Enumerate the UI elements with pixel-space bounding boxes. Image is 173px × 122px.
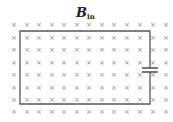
field-cross-icon: × [36,71,42,79]
field-label: Bin [75,5,95,21]
field-cross-icon: × [150,108,156,116]
field-cross-icon: × [111,84,117,92]
field-cross-icon: × [49,34,55,42]
field-cross-icon: × [124,34,130,42]
field-cross-icon: × [163,84,169,92]
field-cross-icon: × [11,34,17,42]
field-cross-icon: × [61,46,67,54]
field-cross-icon: × [163,34,169,42]
field-cross-icon: × [49,59,55,67]
field-cross-icon: × [74,46,80,54]
wire-loop [20,31,150,104]
field-cross-icon: × [74,34,80,42]
field-cross-icon: × [74,71,80,79]
field-cross-icon: × [86,34,92,42]
field-cross-icon: × [86,46,92,54]
field-cross-icon: × [74,96,80,104]
field-cross-icon: × [163,59,169,67]
field-cross-icon: × [36,84,42,92]
field-cross-icon: × [124,84,130,92]
field-cross-icon: × [61,108,67,116]
field-cross-icon: × [163,71,169,79]
field-cross-icon: × [111,59,117,67]
field-cross-icon: × [137,108,143,116]
field-cross-icon: × [49,71,55,79]
field-cross-icon: × [36,34,42,42]
field-cross-icon: × [24,46,30,54]
field-cross-icon: × [74,84,80,92]
field-cross-icon: × [99,34,105,42]
field-cross-icon: × [150,21,156,29]
field-cross-icon: × [24,34,30,42]
field-cross-icon: × [111,108,117,116]
field-cross-icon: × [124,21,130,29]
field-cross-icon: × [111,71,117,79]
field-cross-icon: × [124,59,130,67]
field-cross-icon: × [24,59,30,67]
field-cross-icon: × [163,96,169,104]
field-cross-icon: × [150,59,156,67]
field-cross-icon: × [150,96,156,104]
field-cross-icon: × [124,71,130,79]
field-cross-icon: × [49,84,55,92]
field-cross-icon: × [163,108,169,116]
field-cross-icon: × [86,21,92,29]
field-cross-icon: × [137,84,143,92]
field-cross-icon: × [24,108,30,116]
field-cross-icon: × [36,59,42,67]
field-cross-icon: × [86,96,92,104]
field-cross-icon: × [99,84,105,92]
field-cross-icon: × [99,96,105,104]
field-cross-icon: × [61,21,67,29]
field-cross-icon: × [74,59,80,67]
field-cross-icon: × [11,46,17,54]
field-cross-icon: × [86,84,92,92]
field-cross-icon: × [61,59,67,67]
field-cross-icon: × [24,21,30,29]
field-cross-icon: × [150,84,156,92]
field-cross-icon: × [99,108,105,116]
field-cross-icon: × [74,108,80,116]
field-cross-icon: × [11,96,17,104]
field-cross-icon: × [137,34,143,42]
field-cross-icon: × [99,21,105,29]
field-cross-icon: × [111,46,117,54]
field-cross-icon: × [49,108,55,116]
field-cross-icon: × [24,84,30,92]
field-cross-icon: × [163,21,169,29]
field-cross-icon: × [11,71,17,79]
diagram-figure: Bin ××××××××××××××××××××××××××××××××××××… [0,0,173,122]
field-cross-icon: × [74,21,80,29]
field-cross-icon: × [124,96,130,104]
field-cross-icon: × [36,21,42,29]
field-cross-icon: × [99,59,105,67]
field-cross-icon: × [111,34,117,42]
field-cross-icon: × [150,46,156,54]
field-cross-icon: × [61,34,67,42]
field-cross-icon: × [86,108,92,116]
field-cross-icon: × [111,96,117,104]
field-cross-icon: × [49,96,55,104]
field-cross-icon: × [137,21,143,29]
field-cross-icon: × [150,34,156,42]
field-cross-icon: × [61,96,67,104]
field-cross-icon: × [36,96,42,104]
field-cross-icon: × [111,21,117,29]
field-cross-icon: × [49,21,55,29]
field-cross-icon: × [24,96,30,104]
field-cross-icon: × [11,59,17,67]
field-cross-icon: × [137,96,143,104]
field-cross-icon: × [86,71,92,79]
field-label-main: B [75,5,87,20]
field-cross-icon: × [124,108,130,116]
field-cross-icon: × [11,21,17,29]
field-cross-icon: × [36,46,42,54]
field-cross-icon: × [137,46,143,54]
field-cross-icon: × [99,71,105,79]
field-cross-icon: × [61,84,67,92]
field-cross-icon: × [49,46,55,54]
field-cross-icon: × [137,59,143,67]
field-cross-icon: × [86,59,92,67]
field-cross-icon: × [11,108,17,116]
field-cross-icon: × [36,108,42,116]
